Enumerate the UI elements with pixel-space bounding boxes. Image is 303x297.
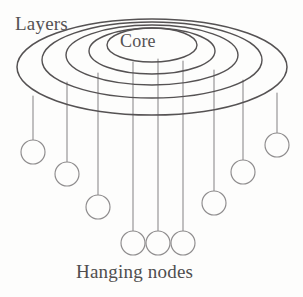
core-label: Core <box>120 31 156 52</box>
hanging-node-4[interactable] <box>121 231 145 255</box>
hanging-node-1[interactable] <box>21 140 45 164</box>
layers-label: Layers <box>15 13 68 35</box>
hanging-node-9[interactable] <box>265 133 289 157</box>
hanging-node-8[interactable] <box>231 160 255 184</box>
hanging-node-7[interactable] <box>202 191 226 215</box>
hanging-node-3[interactable] <box>86 195 110 219</box>
hanging-nodes-label: Hanging nodes <box>76 261 193 283</box>
diagram-canvas: Layers Core Hanging nodes <box>0 0 303 297</box>
hanging-nodes-group <box>21 133 289 255</box>
hanging-node-2[interactable] <box>55 162 79 186</box>
hanging-node-6[interactable] <box>171 231 195 255</box>
hanging-node-5[interactable] <box>146 231 170 255</box>
